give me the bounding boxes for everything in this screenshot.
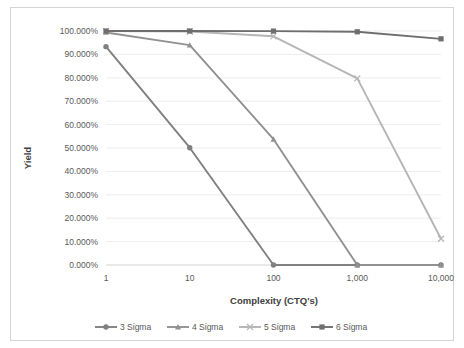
legend-item-5-sigma[interactable]: 5 Sigma [239, 322, 295, 332]
y-tick-label: 20.000% [64, 213, 98, 223]
data-point-marker [187, 145, 192, 150]
y-tick-label: 60.000% [64, 120, 98, 130]
series-line-3-sigma [106, 47, 441, 265]
y-tick-label: 100.000% [60, 26, 99, 36]
legend-item-3-sigma[interactable]: 3 Sigma [95, 322, 151, 332]
data-point-marker [438, 236, 444, 242]
y-tick-label: 30.000% [64, 190, 98, 200]
y-tick-label: 10.000% [64, 237, 98, 247]
data-point-marker [271, 28, 276, 33]
x-tick-label: 10,000 [428, 273, 454, 283]
data-point-marker [271, 262, 276, 267]
chart-svg: 0.000%10.000%20.000%30.000%40.000%50.000… [11, 8, 455, 342]
series-line-4-sigma [106, 32, 441, 265]
y-tick-label: 80.000% [64, 73, 98, 83]
plot-area: 0.000%10.000%20.000%30.000%40.000%50.000… [11, 8, 455, 342]
legend-group[interactable]: 3 Sigma4 Sigma5 Sigma6 Sigma [95, 322, 367, 332]
gridlines-group [106, 31, 441, 265]
legend-label: 6 Sigma [336, 322, 367, 332]
chart-container: 0.000%10.000%20.000%30.000%40.000%50.000… [10, 7, 454, 341]
x-tick-label: 1,000 [347, 273, 369, 283]
y-tick-label: 70.000% [64, 96, 98, 106]
legend-swatch-marker [103, 324, 108, 329]
legend-item-6-sigma[interactable]: 6 Sigma [311, 322, 367, 332]
data-point-marker [103, 44, 108, 49]
y-tick-label: 50.000% [64, 143, 98, 153]
y-tick-label: 90.000% [64, 49, 98, 59]
x-tick-label: 10 [185, 273, 195, 283]
x-tick-label: 1 [104, 273, 109, 283]
data-point-marker [355, 29, 360, 34]
x-tick-labels-group: 1101001,00010,000 [104, 273, 455, 283]
legend-label: 4 Sigma [192, 322, 223, 332]
x-axis-title: Complexity (CTQ's) [230, 295, 318, 306]
data-point-marker [187, 28, 192, 33]
data-point-marker [103, 28, 108, 33]
series-line-5-sigma [106, 31, 441, 239]
legend-item-4-sigma[interactable]: 4 Sigma [167, 322, 223, 332]
x-tick-label: 100 [266, 273, 280, 283]
data-point-marker [438, 36, 443, 41]
y-tick-label: 40.000% [64, 166, 98, 176]
legend-label: 3 Sigma [120, 322, 151, 332]
legend-swatch-marker [319, 324, 324, 329]
y-tick-labels-group: 0.000%10.000%20.000%30.000%40.000%50.000… [60, 26, 99, 270]
y-tick-label: 0.000% [69, 260, 98, 270]
legend-label: 5 Sigma [264, 322, 295, 332]
y-axis-title: Yield [22, 147, 33, 170]
